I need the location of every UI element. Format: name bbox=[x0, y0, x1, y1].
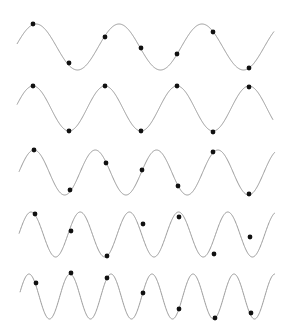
sample-point bbox=[211, 30, 216, 35]
sample-point bbox=[103, 84, 108, 89]
sample-point bbox=[177, 215, 182, 220]
sine-curve bbox=[17, 86, 273, 131]
sample-point bbox=[212, 252, 217, 257]
sample-point bbox=[31, 84, 36, 89]
sample-point bbox=[69, 229, 74, 234]
sine-curve bbox=[17, 24, 274, 70]
sine-curve bbox=[19, 212, 275, 257]
sample-point bbox=[175, 84, 180, 89]
wave-1 bbox=[17, 22, 274, 71]
sample-point bbox=[211, 150, 216, 155]
sample-point bbox=[211, 130, 216, 135]
waves-group bbox=[17, 22, 275, 321]
sample-point bbox=[248, 235, 253, 240]
sample-point bbox=[141, 291, 146, 296]
sample-point bbox=[177, 307, 182, 312]
sample-point bbox=[33, 212, 38, 217]
sine-curve bbox=[19, 150, 275, 195]
sample-point bbox=[105, 276, 110, 281]
sample-point bbox=[139, 129, 144, 134]
wave-2 bbox=[17, 84, 273, 135]
sine-curve bbox=[20, 274, 275, 319]
sample-point bbox=[175, 52, 180, 57]
sample-point bbox=[140, 168, 145, 173]
sample-point bbox=[31, 22, 36, 27]
sample-point bbox=[213, 316, 218, 321]
sample-point bbox=[139, 46, 144, 51]
sample-point bbox=[34, 281, 39, 286]
wave-5 bbox=[20, 271, 275, 321]
wave-3 bbox=[19, 148, 275, 197]
sample-point bbox=[104, 161, 109, 166]
sample-point bbox=[68, 188, 73, 193]
sampled-sine-waves-diagram bbox=[0, 0, 293, 331]
sample-point bbox=[247, 66, 252, 71]
wave-4 bbox=[19, 212, 275, 259]
sample-point bbox=[176, 184, 181, 189]
sample-point bbox=[249, 311, 254, 316]
sample-point bbox=[32, 148, 37, 153]
sample-point bbox=[247, 85, 252, 90]
sample-point bbox=[67, 129, 72, 134]
sample-point bbox=[67, 61, 72, 66]
sample-point bbox=[105, 254, 110, 259]
sample-point bbox=[69, 271, 74, 276]
sample-point bbox=[141, 222, 146, 227]
sample-point bbox=[103, 35, 108, 40]
sample-point bbox=[247, 192, 252, 197]
